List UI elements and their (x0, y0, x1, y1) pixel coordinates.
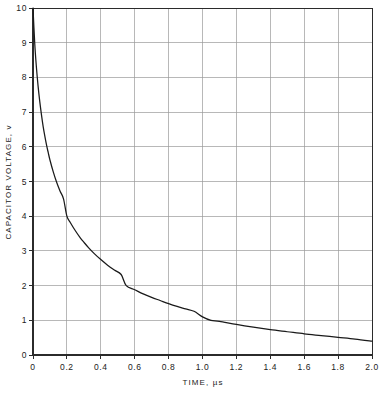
y-axis-tick-label: 1 (5, 316, 27, 325)
y-axis-tick-label: 8 (5, 73, 27, 82)
x-axis-tick-label: 0.6 (128, 363, 142, 372)
x-axis-tick-label: 1.0 (196, 363, 210, 372)
y-axis-title: CAPACITOR VOLTAGE, v (5, 124, 13, 239)
chart-figure: 012345678910 00.20.40.60.81.01.21.41.61.… (0, 0, 389, 396)
y-axis-tick-label: 3 (5, 247, 27, 256)
x-axis-tick-label: 2.0 (365, 363, 379, 372)
x-axis-tick-label: 1.8 (331, 363, 345, 372)
y-axis-tick-label: 7 (5, 108, 27, 117)
capacitor-discharge-chart (0, 0, 389, 396)
x-axis-tick-label: 0 (30, 363, 35, 372)
y-axis-tick-label: 10 (5, 4, 27, 13)
x-axis-tick-label: 1.2 (230, 363, 244, 372)
x-axis-tick-label: 0.8 (162, 363, 176, 372)
y-axis-tick-label: 2 (5, 281, 27, 290)
y-axis-tick-label: 0 (5, 351, 27, 360)
x-axis-tick-label: 0.2 (60, 363, 74, 372)
x-axis-tick-label: 1.6 (297, 363, 311, 372)
x-axis-tick-label: 1.4 (263, 363, 277, 372)
y-axis-tick-label: 9 (5, 38, 27, 47)
x-axis-tick-label: 0.4 (94, 363, 108, 372)
x-axis-title: TIME, µs (183, 379, 224, 387)
